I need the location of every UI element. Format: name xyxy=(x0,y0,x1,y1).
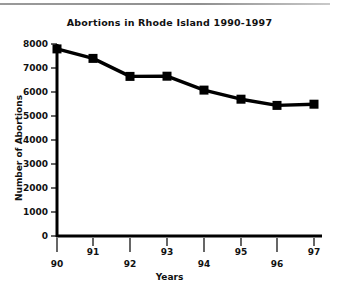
x-tick-marks xyxy=(57,238,314,252)
data-point-92 xyxy=(126,72,135,81)
data-point-93 xyxy=(163,72,172,81)
data-point-96 xyxy=(273,101,282,110)
data-point-97 xyxy=(310,100,319,109)
chart-figure: Abortions in Rhode Island 1990-1997 Numb… xyxy=(0,0,339,302)
data-point-90 xyxy=(53,44,62,53)
data-point-94 xyxy=(200,86,209,95)
data-point-91 xyxy=(89,54,98,63)
data-markers xyxy=(53,44,319,110)
plot-area xyxy=(0,0,339,302)
data-point-95 xyxy=(237,95,246,104)
